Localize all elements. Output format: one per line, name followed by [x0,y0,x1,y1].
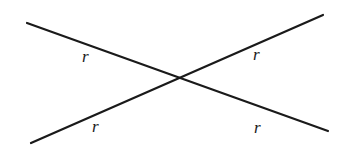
line-lower-left-to-upper-right [31,15,323,143]
label-r-lower-right: r [254,118,261,137]
label-r-lower-left: r [92,117,99,136]
label-r-upper-right: r [253,45,260,64]
label-r-upper-left: r [82,47,89,66]
diagram-canvas: r r r r [0,0,354,159]
intersecting-lines-diagram: r r r r [0,0,354,159]
line-upper-left-to-lower-right [27,23,328,131]
